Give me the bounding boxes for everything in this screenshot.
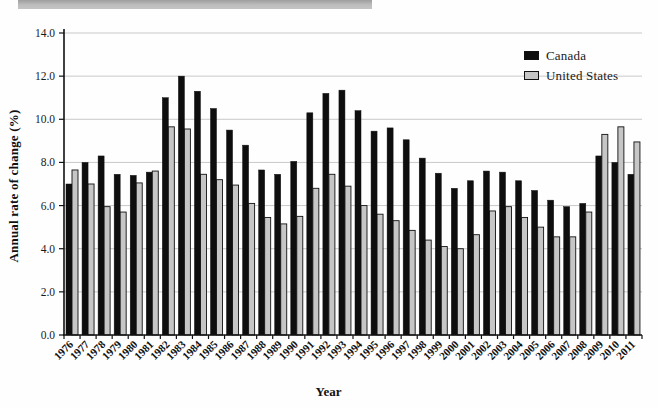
- bar-canada-1993: [339, 90, 345, 335]
- bar-united-states-2004: [522, 217, 528, 335]
- y-tick-label: 0.0: [41, 329, 56, 341]
- bar-united-states-2000: [457, 249, 463, 335]
- bar-canada-1977: [82, 162, 88, 335]
- bar-canada-1982: [162, 98, 168, 335]
- bar-united-states-2001: [473, 235, 479, 335]
- bar-united-states-2005: [538, 227, 544, 335]
- bar-united-states-1988: [265, 217, 271, 335]
- bar-canada-2004: [516, 181, 522, 335]
- bar-united-states-1977: [88, 184, 94, 335]
- bar-united-states-2002: [489, 211, 495, 335]
- bar-canada-1995: [371, 131, 377, 335]
- canada-swatch-icon: [524, 51, 539, 60]
- bar-united-states-1997: [409, 230, 415, 335]
- y-tick-label: 2.0: [41, 286, 56, 298]
- bar-canada-1991: [307, 113, 313, 335]
- bar-united-states-1991: [313, 188, 319, 335]
- legend-label-canada: Canada: [546, 49, 586, 62]
- bar-united-states-1978: [104, 207, 110, 335]
- bar-canada-1988: [259, 170, 265, 335]
- screenshot-root: 0.02.04.06.08.010.012.014.01976197719781…: [0, 0, 657, 408]
- bar-united-states-2009: [602, 134, 608, 335]
- bar-canada-1978: [98, 156, 104, 335]
- bar-united-states-1984: [200, 174, 206, 335]
- bar-canada-1994: [355, 111, 361, 335]
- bar-united-states-2007: [570, 237, 576, 335]
- bar-canada-1984: [194, 91, 200, 335]
- united-states-swatch-icon: [524, 71, 539, 80]
- bar-canada-1980: [130, 175, 136, 335]
- bar-canada-1983: [178, 76, 184, 335]
- bar-canada-1979: [114, 174, 120, 335]
- bar-united-states-1982: [168, 127, 174, 335]
- bar-canada-1996: [387, 128, 393, 335]
- bar-canada-1987: [243, 145, 249, 335]
- x-tick-label-2011: 2011: [614, 338, 638, 362]
- bar-united-states-2006: [554, 237, 560, 335]
- bar-united-states-1990: [297, 216, 303, 335]
- bar-canada-1976: [66, 184, 72, 335]
- bar-united-states-1995: [377, 214, 383, 335]
- bar-united-states-2010: [618, 127, 624, 335]
- bar-canada-2000: [451, 188, 457, 335]
- legend-item-united-states: United States: [524, 69, 618, 82]
- bar-united-states-1992: [329, 174, 335, 335]
- x-axis-title: Year: [0, 384, 657, 400]
- bar-united-states-1986: [233, 185, 239, 335]
- bar-canada-1997: [403, 140, 409, 335]
- bar-united-states-1981: [152, 171, 158, 335]
- y-tick-label: 4.0: [41, 243, 56, 255]
- bar-chart: 0.02.04.06.08.010.012.014.01976197719781…: [0, 0, 657, 408]
- bar-united-states-1980: [136, 183, 142, 335]
- y-tick-label: 10.0: [35, 113, 55, 125]
- bar-canada-1981: [146, 172, 152, 335]
- bar-canada-2003: [500, 172, 506, 335]
- bar-united-states-2011: [634, 142, 640, 335]
- bar-canada-1999: [435, 173, 441, 335]
- chart-legend: Canada United States: [524, 49, 618, 82]
- y-tick-label: 14.0: [35, 27, 55, 39]
- y-tick-label: 8.0: [41, 156, 56, 168]
- bar-canada-2001: [467, 181, 473, 335]
- bar-canada-2005: [532, 190, 538, 335]
- bar-canada-1990: [291, 161, 297, 335]
- y-tick-label: 6.0: [41, 200, 56, 212]
- bar-united-states-1987: [249, 203, 255, 335]
- legend-label-united-states: United States: [546, 69, 618, 82]
- bar-canada-2002: [483, 171, 489, 335]
- y-axis-title: Annual rate of change (%): [6, 86, 22, 286]
- bar-canada-1998: [419, 158, 425, 335]
- bar-canada-2007: [564, 207, 570, 335]
- bar-united-states-1989: [281, 224, 287, 335]
- bar-canada-2010: [612, 162, 618, 335]
- legend-item-canada: Canada: [524, 49, 618, 62]
- bar-united-states-1996: [393, 221, 399, 335]
- bar-united-states-1985: [217, 180, 223, 335]
- bar-united-states-1998: [425, 240, 431, 335]
- bar-united-states-2003: [506, 207, 512, 335]
- bar-canada-2009: [596, 156, 602, 335]
- bar-canada-1985: [211, 109, 217, 336]
- bar-united-states-1979: [120, 212, 126, 335]
- bar-united-states-1994: [361, 206, 367, 335]
- bar-united-states-1999: [441, 247, 447, 335]
- bar-united-states-1976: [72, 170, 78, 335]
- bar-canada-2006: [548, 200, 554, 335]
- y-tick-label: 12.0: [35, 70, 55, 82]
- bar-united-states-1983: [184, 129, 190, 335]
- bar-canada-1989: [275, 174, 281, 335]
- bar-united-states-1993: [345, 186, 351, 335]
- bar-canada-2011: [628, 174, 634, 335]
- bar-canada-2008: [580, 203, 586, 335]
- bar-canada-1986: [227, 130, 233, 335]
- bar-united-states-2008: [586, 212, 592, 335]
- bar-canada-1992: [323, 93, 329, 335]
